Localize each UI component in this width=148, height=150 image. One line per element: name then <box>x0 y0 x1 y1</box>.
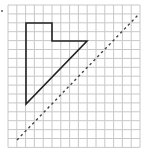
grid-diagram <box>0 0 148 150</box>
polygon-shape <box>26 23 87 104</box>
grid-lines <box>8 5 140 147</box>
